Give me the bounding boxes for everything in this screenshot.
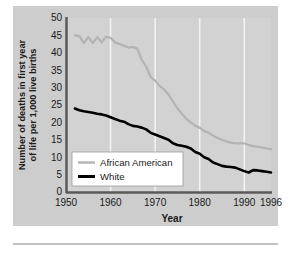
y-tick-labels: 05101520253035404550 — [51, 12, 63, 197]
x-tick-label-1990: 1990 — [233, 197, 256, 208]
y-axis-title-line-2: of life per 1,000 live births — [28, 49, 38, 162]
y-tick-label-20: 20 — [51, 117, 63, 128]
x-tick-labels: 195019601970198019901996 — [55, 197, 283, 208]
legend-label-african-american: African American — [100, 157, 173, 168]
y-tick-label-25: 25 — [51, 99, 63, 110]
y-tick-label-45: 45 — [51, 30, 63, 41]
y-tick-label-15: 15 — [51, 134, 63, 145]
legend-label-white: White — [100, 171, 125, 182]
y-tick-label-0: 0 — [56, 186, 62, 197]
y-axis-title-line-1: Number of deaths in first year — [17, 39, 27, 170]
x-tick-label-1970: 1970 — [144, 197, 167, 208]
x-tick-label-1950: 1950 — [55, 197, 78, 208]
y-tick-label-30: 30 — [51, 82, 63, 93]
x-tick-label-1980: 1980 — [189, 197, 212, 208]
x-axis-title: Year — [161, 213, 182, 224]
y-tick-label-40: 40 — [51, 47, 63, 58]
chart-figure: 05101520253035404550 1950196019701980199… — [0, 0, 291, 254]
infant-mortality-line-chart: 05101520253035404550 1950196019701980199… — [0, 0, 291, 254]
x-tick-label-1996: 1996 — [260, 197, 283, 208]
x-tick-label-1960: 1960 — [99, 197, 122, 208]
y-tick-label-10: 10 — [51, 152, 63, 163]
y-tick-label-35: 35 — [51, 65, 63, 76]
y-tick-label-50: 50 — [51, 12, 63, 23]
y-tick-label-5: 5 — [56, 169, 62, 180]
chart-legend: African American White — [72, 152, 183, 186]
